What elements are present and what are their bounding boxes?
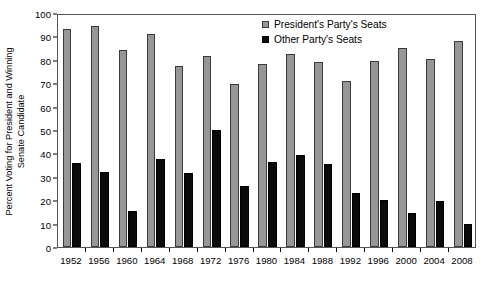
x-axis-tick-mark <box>197 248 198 252</box>
bar-other-party-1968 <box>184 173 193 247</box>
bar-presidents-party-1980 <box>258 64 267 247</box>
y-axis-tick-mark <box>53 224 57 225</box>
bar-presidents-party-1956 <box>91 26 100 247</box>
bar-other-party-2000 <box>408 213 417 247</box>
x-axis-tick-mark <box>420 248 421 252</box>
y-axis-tick-label: 80 <box>40 55 51 66</box>
legend-label-other-party: Other Party's Seats <box>274 34 362 45</box>
x-axis-tick-label: 1996 <box>368 255 389 266</box>
x-axis-tick-label: 1984 <box>284 255 305 266</box>
y-axis-tick-mark <box>53 248 57 249</box>
bar-presidents-party-1976 <box>230 84 239 247</box>
x-axis-tick-mark <box>169 248 170 252</box>
x-axis-tick-mark <box>308 248 309 252</box>
x-axis-tick-mark <box>336 248 337 252</box>
y-axis-tick-label: 10 <box>40 219 51 230</box>
bar-presidents-party-1988 <box>314 62 323 247</box>
y-axis-tick-label: 40 <box>40 149 51 160</box>
y-axis-tick-mark <box>53 177 57 178</box>
y-axis-tick-label: 70 <box>40 79 51 90</box>
x-axis-tick-label: 1980 <box>256 255 277 266</box>
x-axis-tick-label: 1952 <box>60 255 81 266</box>
x-axis-tick-label: 1972 <box>200 255 221 266</box>
y-axis-tick-mark <box>53 60 57 61</box>
bar-presidents-party-1952 <box>63 29 72 247</box>
x-axis-tick-mark <box>448 248 449 252</box>
bar-presidents-party-1996 <box>370 61 379 247</box>
bar-presidents-party-2008 <box>454 41 463 247</box>
bar-presidents-party-1960 <box>119 50 128 247</box>
legend-item-other-party: Other Party's Seats <box>262 33 387 46</box>
y-axis-tick-mark <box>53 107 57 108</box>
bar-other-party-1988 <box>324 164 333 247</box>
bar-presidents-party-1964 <box>147 34 156 247</box>
y-axis-tick-mark <box>53 37 57 38</box>
black-square-icon <box>262 36 269 43</box>
y-axis-tick-labels: 0102030405060708090100 <box>26 14 51 248</box>
x-axis-tick-mark <box>113 248 114 252</box>
bar-presidents-party-1968 <box>175 66 184 247</box>
y-axis-tick-mark <box>53 131 57 132</box>
x-axis-tick-label: 1968 <box>172 255 193 266</box>
x-axis-tick-mark <box>85 248 86 252</box>
y-axis-tick-label: 0 <box>46 243 51 254</box>
legend-label-presidents-party: President's Party's Seats <box>274 19 387 30</box>
bar-other-party-1972 <box>212 130 221 247</box>
y-axis-tick-label: 30 <box>40 172 51 183</box>
bar-other-party-1976 <box>240 186 249 247</box>
y-axis-tick-label: 50 <box>40 126 51 137</box>
x-axis-tick-label: 2000 <box>395 255 416 266</box>
bar-other-party-2004 <box>436 201 445 247</box>
bar-other-party-1980 <box>268 162 277 247</box>
plot-area <box>57 14 476 248</box>
y-axis-tick-label: 100 <box>35 9 51 20</box>
y-axis-tick-mark <box>53 84 57 85</box>
legend-item-presidents-party: President's Party's Seats <box>262 18 387 31</box>
x-axis-tick-mark <box>364 248 365 252</box>
bar-other-party-1964 <box>156 159 165 247</box>
bar-presidents-party-1972 <box>203 56 212 247</box>
bar-other-party-1960 <box>128 211 137 247</box>
y-axis-tick-mark <box>53 14 57 15</box>
y-axis-tick-label: 20 <box>40 196 51 207</box>
bar-chart: Percent Voting for President and Winning… <box>0 0 481 283</box>
x-axis-tick-label: 1976 <box>228 255 249 266</box>
bars-layer <box>58 15 475 247</box>
x-axis-tick-mark <box>280 248 281 252</box>
bar-other-party-1956 <box>100 172 109 247</box>
bar-presidents-party-2000 <box>398 48 407 247</box>
bar-other-party-1996 <box>380 200 389 247</box>
y-axis-tick-mark <box>53 154 57 155</box>
x-axis-tick-mark <box>225 248 226 252</box>
x-axis-tick-label: 1992 <box>340 255 361 266</box>
bar-other-party-2008 <box>464 224 473 247</box>
chart-legend: President's Party's Seats Other Party's … <box>262 18 387 48</box>
x-axis-tick-label: 1964 <box>144 255 165 266</box>
bar-other-party-1992 <box>352 193 361 247</box>
x-axis-tick-label: 2008 <box>451 255 472 266</box>
bar-other-party-1984 <box>296 155 305 247</box>
x-axis-tick-mark <box>392 248 393 252</box>
x-axis-tick-mark <box>253 248 254 252</box>
bar-other-party-1952 <box>72 163 81 247</box>
gray-square-icon <box>262 21 269 28</box>
y-axis-tick-label: 90 <box>40 32 51 43</box>
x-axis-tick-mark <box>141 248 142 252</box>
bar-presidents-party-1984 <box>286 54 295 247</box>
bar-presidents-party-1992 <box>342 81 351 247</box>
y-axis-tick-mark <box>53 201 57 202</box>
x-axis-tick-label: 1960 <box>116 255 137 266</box>
y-axis-title-line-1: Percent Voting for President and Winning <box>4 47 16 215</box>
x-axis-tick-label: 1956 <box>88 255 109 266</box>
bar-presidents-party-2004 <box>426 59 435 247</box>
x-axis-tick-label: 1988 <box>312 255 333 266</box>
x-axis-tick-label: 2004 <box>423 255 444 266</box>
y-axis-title-line-2: Senate Candidate <box>15 47 27 215</box>
y-axis-tick-label: 60 <box>40 102 51 113</box>
